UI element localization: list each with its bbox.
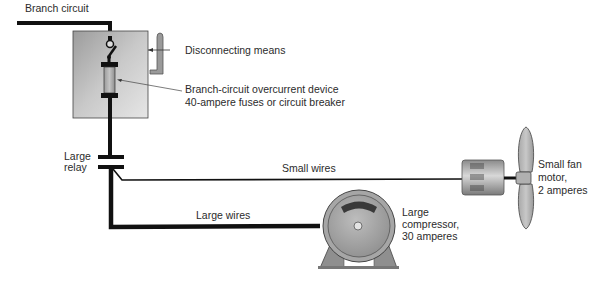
label-disconnecting-means: Disconnecting means	[185, 44, 285, 57]
label-fan-line1: Small fan	[538, 158, 582, 171]
wiring-diagram	[0, 0, 613, 289]
disconnect-handle	[148, 33, 170, 74]
large-relay	[98, 155, 124, 169]
fan-blade	[516, 127, 534, 229]
label-fan-line3: 2 amperes	[538, 184, 588, 197]
label-large-wires: Large wires	[196, 209, 250, 222]
large-compressor	[318, 190, 399, 269]
small-fan-motor	[462, 160, 517, 195]
label-relay-line2: relay	[64, 161, 87, 174]
label-branch-circuit: Branch circuit	[25, 2, 89, 15]
label-overcurrent-line2: 40-ampere fuses or circuit breaker	[185, 96, 345, 109]
label-compressor-line2: compressor,	[402, 218, 459, 231]
label-small-wires: Small wires	[282, 162, 336, 175]
label-compressor-line1: Large	[402, 206, 429, 219]
label-fan-line2: motor,	[538, 171, 567, 184]
label-compressor-line3: 30 amperes	[402, 230, 457, 243]
label-overcurrent-line1: Branch-circuit overcurrent device	[185, 83, 338, 96]
